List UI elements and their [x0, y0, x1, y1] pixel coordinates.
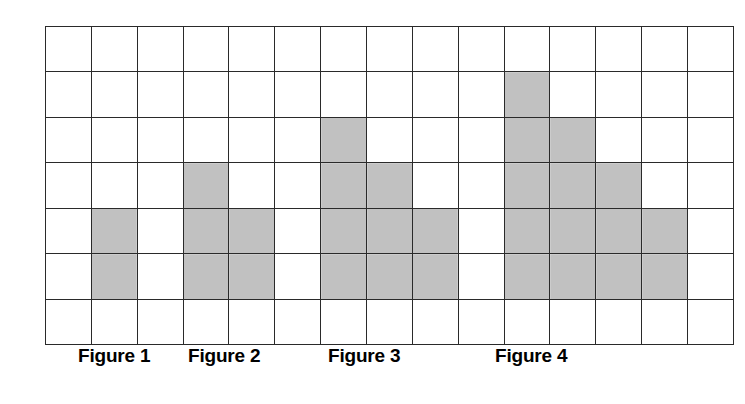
grid-cell-empty [458, 27, 504, 72]
grid-row [46, 27, 734, 72]
grid-cell-filled [642, 208, 688, 253]
grid-cell-empty [688, 299, 734, 344]
grid-cell-filled [504, 72, 550, 117]
grid-cell-filled [596, 208, 642, 253]
grid-cell-empty [688, 163, 734, 208]
grid-cell-empty [367, 117, 413, 162]
grid-cell-empty [91, 27, 137, 72]
grid-cell-filled [504, 163, 550, 208]
grid-cell-empty [458, 299, 504, 344]
grid-cell-filled [504, 208, 550, 253]
grid-cell-empty [137, 27, 183, 72]
grid-cell-filled [229, 208, 275, 253]
grid-cell-empty [275, 254, 321, 299]
grid-row [46, 72, 734, 117]
grid-cell-filled [183, 163, 229, 208]
grid-cell-empty [458, 72, 504, 117]
grid-cell-empty [46, 208, 92, 253]
grid-cell-filled [642, 254, 688, 299]
grid-cell-empty [412, 27, 458, 72]
grid-cell-empty [46, 117, 92, 162]
grid-cell-empty [137, 208, 183, 253]
grid-cell-filled [412, 254, 458, 299]
grid-cell-empty [137, 299, 183, 344]
grid-cell-empty [412, 72, 458, 117]
grid-cell-filled [367, 254, 413, 299]
grid-cell-empty [412, 163, 458, 208]
grid-cell-filled [321, 254, 367, 299]
grid-cell-empty [46, 72, 92, 117]
grid-cell-empty [229, 163, 275, 208]
grid-cell-empty [46, 299, 92, 344]
grid-cell-empty [275, 299, 321, 344]
grid-row [46, 254, 734, 299]
grid-cell-empty [275, 208, 321, 253]
grid-cell-empty [137, 72, 183, 117]
grid-cell-filled [91, 208, 137, 253]
square-grid [45, 26, 718, 337]
grid-cell-empty [229, 72, 275, 117]
grid-row [46, 208, 734, 253]
grid-cell-empty [275, 117, 321, 162]
grid-body [46, 27, 734, 345]
grid-cell-filled [229, 254, 275, 299]
grid-cell-empty [367, 299, 413, 344]
grid-cell-filled [550, 117, 596, 162]
grid-cell-filled [550, 208, 596, 253]
grid-cell-empty [367, 72, 413, 117]
grid-cell-empty [642, 299, 688, 344]
grid-row [46, 163, 734, 208]
grid-cell-empty [137, 117, 183, 162]
grid-cell-empty [642, 72, 688, 117]
grid-row [46, 299, 734, 344]
grid-cell-empty [91, 117, 137, 162]
grid-cell-filled [321, 117, 367, 162]
grid-row [46, 117, 734, 162]
grid-cell-empty [275, 163, 321, 208]
grid-cell-empty [183, 27, 229, 72]
grid-cell-filled [596, 163, 642, 208]
grid-cell-empty [596, 299, 642, 344]
grid-cell-empty [458, 117, 504, 162]
grid-cell-empty [46, 254, 92, 299]
grid-cell-empty [91, 163, 137, 208]
grid-cell-empty [412, 117, 458, 162]
grid-cell-empty [229, 299, 275, 344]
grid-cell-filled [183, 208, 229, 253]
grid-cell-empty [642, 117, 688, 162]
grid-cell-empty [91, 299, 137, 344]
grid-cell-empty [642, 163, 688, 208]
figure-label-3: Figure 3 [328, 345, 400, 367]
grid-cell-empty [458, 163, 504, 208]
grid-cell-empty [596, 72, 642, 117]
grid-cell-empty [642, 27, 688, 72]
grid-cell-empty [275, 72, 321, 117]
grid-table [45, 26, 734, 345]
grid-cell-empty [688, 72, 734, 117]
grid-cell-empty [458, 254, 504, 299]
grid-cell-filled [321, 208, 367, 253]
grid-cell-filled [367, 163, 413, 208]
grid-cell-empty [688, 27, 734, 72]
grid-cell-empty [688, 117, 734, 162]
grid-cell-filled [183, 254, 229, 299]
figure-label-2: Figure 2 [188, 345, 260, 367]
grid-cell-filled [550, 163, 596, 208]
grid-cell-empty [504, 299, 550, 344]
grid-cell-empty [321, 299, 367, 344]
grid-cell-filled [367, 208, 413, 253]
grid-cell-empty [91, 72, 137, 117]
figure-label-4: Figure 4 [495, 345, 567, 367]
grid-cell-empty [46, 163, 92, 208]
grid-cell-empty [458, 208, 504, 253]
grid-cell-empty [321, 27, 367, 72]
grid-cell-filled [596, 254, 642, 299]
figure-label-1: Figure 1 [78, 345, 150, 367]
grid-cell-empty [137, 163, 183, 208]
grid-cell-empty [183, 299, 229, 344]
grid-cell-empty [46, 27, 92, 72]
grid-cell-filled [412, 208, 458, 253]
figure-sequence-page: Figure 1 Figure 2 Figure 3 Figure 4 [0, 0, 745, 404]
grid-cell-filled [91, 254, 137, 299]
grid-cell-empty [550, 72, 596, 117]
